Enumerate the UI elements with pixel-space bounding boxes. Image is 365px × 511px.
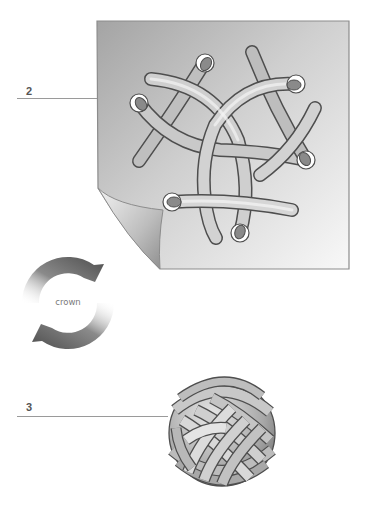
crown-arrow-lower xyxy=(32,303,114,349)
step-3-knot-ball xyxy=(169,380,275,486)
crown-label: crown xyxy=(38,297,98,307)
knot-diagram-canvas xyxy=(0,0,365,511)
